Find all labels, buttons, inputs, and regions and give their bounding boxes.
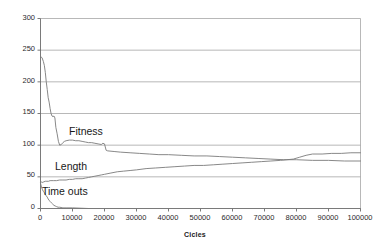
x-tick-label-100000: 100000 (344, 214, 376, 222)
series-label-timeouts: Time outs (42, 186, 88, 197)
series-line-length (41, 153, 361, 183)
x-axis-title: Cicles (0, 231, 390, 238)
y-tick-label-250: 250 (12, 45, 35, 53)
x-tick-label-30000: 30000 (122, 214, 150, 222)
chart-container: 300 250 200 150 100 50 0 0 10000 20000 3… (0, 0, 390, 249)
y-tick-label-150: 150 (12, 108, 35, 116)
series-line-time-outs (41, 183, 361, 208)
y-tick-label-100: 100 (12, 140, 35, 148)
x-tick-label-80000: 80000 (282, 214, 310, 222)
y-tick-label-50: 50 (12, 171, 35, 179)
x-tick-label-60000: 60000 (218, 214, 246, 222)
series-label-fitness: Fitness (69, 126, 103, 137)
y-tick-label-300: 300 (12, 14, 35, 22)
y-tick-label-200: 200 (12, 77, 35, 85)
x-tick-label-50000: 50000 (186, 214, 214, 222)
series-label-length: Length (55, 161, 87, 172)
x-tick-label-70000: 70000 (250, 214, 278, 222)
x-tick-label-40000: 40000 (154, 214, 182, 222)
line-chart-plot (0, 0, 390, 249)
y-tick-label-0: 0 (12, 203, 35, 211)
x-tick-label-20000: 20000 (90, 214, 118, 222)
x-tick-label-0: 0 (26, 214, 54, 222)
x-tick-label-90000: 90000 (314, 214, 342, 222)
x-tick-label-10000: 10000 (58, 214, 86, 222)
